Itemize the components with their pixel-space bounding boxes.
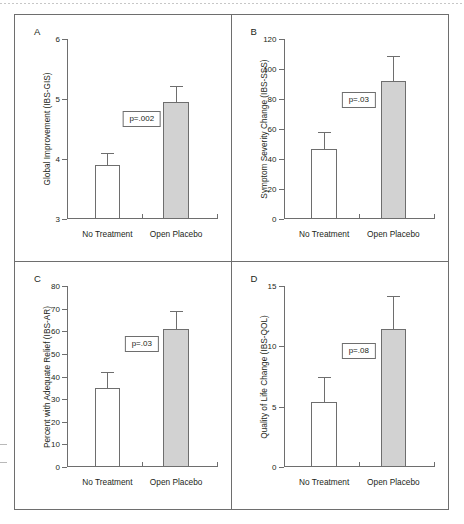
y-tick-label: 20 bbox=[268, 185, 277, 194]
y-tick-label: 70 bbox=[51, 304, 60, 313]
error-bar-stem bbox=[107, 153, 108, 165]
edge-crop-mark-upper bbox=[0, 444, 7, 445]
y-tick-mark bbox=[279, 407, 284, 408]
y-axis-label-d: Quality of Life Change (IBS-QOL) bbox=[259, 315, 269, 439]
page-top-rule bbox=[0, 3, 464, 4]
x-tick-label-open-placebo: Open Placebo bbox=[367, 477, 420, 487]
y-tick-mark bbox=[62, 444, 67, 445]
error-bar-cap bbox=[387, 56, 400, 57]
y-tick-label: 5 bbox=[272, 402, 276, 411]
y-tick-label: 60 bbox=[268, 125, 277, 134]
y-tick-mark bbox=[62, 286, 67, 287]
y-tick-mark bbox=[62, 377, 67, 378]
panel-a: AGlobal Improvement (IBS-GIS)3456No Trea… bbox=[15, 15, 232, 262]
y-axis-label-wrap-a: Global Improvement (IBS-GIS) bbox=[35, 39, 49, 219]
bar-a-open-placebo bbox=[163, 102, 188, 219]
x-tick-mark bbox=[284, 462, 285, 467]
panel-letter-a: A bbox=[34, 26, 41, 37]
error-bar-stem bbox=[393, 56, 394, 82]
x-tick-label-open-placebo: Open Placebo bbox=[150, 477, 203, 487]
x-tick-label-no-treatment: No Treatment bbox=[299, 477, 349, 487]
y-tick-label: 6 bbox=[56, 35, 60, 44]
y-tick-mark bbox=[279, 99, 284, 100]
y-tick-label: 60 bbox=[51, 327, 60, 336]
x-tick-label-no-treatment: No Treatment bbox=[299, 229, 349, 239]
panel-letter-c: C bbox=[34, 273, 41, 284]
error-bar-cap bbox=[170, 86, 183, 87]
y-axis-line bbox=[284, 286, 285, 467]
y-tick-label: 3 bbox=[56, 215, 60, 224]
y-tick-mark bbox=[62, 309, 67, 310]
y-tick-label: 40 bbox=[268, 155, 277, 164]
y-tick-label: 20 bbox=[51, 417, 60, 426]
edge-crop-mark-lower bbox=[0, 462, 7, 463]
y-tick-mark bbox=[62, 331, 67, 332]
p-value-box-a: p=.002 bbox=[122, 111, 161, 127]
bar-c-no-treatment bbox=[95, 388, 120, 467]
bar-b-no-treatment bbox=[311, 149, 337, 220]
bar-d-open-placebo bbox=[381, 329, 407, 467]
y-tick-mark bbox=[62, 467, 67, 468]
p-value-box-d: p=.08 bbox=[342, 343, 376, 359]
x-tick-mark bbox=[359, 462, 360, 467]
plot-area-d: 051015No TreatmentOpen Placebop=.08 bbox=[284, 286, 435, 467]
panel-letter-b: B bbox=[251, 26, 258, 37]
x-tick-mark bbox=[359, 214, 360, 219]
x-tick-mark bbox=[434, 214, 435, 219]
x-tick-label-open-placebo: Open Placebo bbox=[367, 229, 420, 239]
y-tick-label: 80 bbox=[268, 95, 277, 104]
y-tick-label: 10 bbox=[268, 342, 277, 351]
figure-frame: AGlobal Improvement (IBS-GIS)3456No Trea… bbox=[14, 14, 449, 510]
y-axis-line bbox=[67, 286, 68, 467]
bar-a-no-treatment bbox=[95, 165, 120, 219]
error-bar-stem bbox=[324, 377, 325, 402]
y-tick-mark bbox=[279, 219, 284, 220]
y-tick-mark bbox=[279, 189, 284, 190]
y-tick-label: 100 bbox=[263, 65, 276, 74]
x-tick-mark bbox=[142, 462, 143, 467]
y-tick-label: 15 bbox=[268, 282, 277, 291]
panel-b: BSymptom Severity Change (IBS-SSS)020406… bbox=[232, 15, 449, 262]
error-bar-stem bbox=[176, 86, 177, 102]
y-tick-label: 40 bbox=[51, 372, 60, 381]
plot-area-b: 020406080100120No TreatmentOpen Placebop… bbox=[284, 39, 435, 219]
error-bar-cap bbox=[387, 296, 400, 297]
y-tick-mark bbox=[279, 286, 284, 287]
y-tick-label: 50 bbox=[51, 349, 60, 358]
y-tick-label: 5 bbox=[56, 95, 60, 104]
error-bar-cap bbox=[318, 132, 331, 133]
y-tick-mark bbox=[279, 129, 284, 130]
bar-d-no-treatment bbox=[311, 402, 337, 467]
y-tick-label: 80 bbox=[51, 282, 60, 291]
y-axis-line bbox=[67, 39, 68, 219]
y-tick-label: 0 bbox=[56, 463, 60, 472]
y-tick-label: 120 bbox=[263, 35, 276, 44]
x-tick-label-no-treatment: No Treatment bbox=[82, 477, 132, 487]
y-tick-label: 0 bbox=[272, 463, 276, 472]
y-tick-mark bbox=[62, 219, 67, 220]
y-axis-label-a: Global Improvement (IBS-GIS) bbox=[42, 73, 52, 186]
y-axis-line bbox=[284, 39, 285, 219]
y-tick-mark bbox=[62, 354, 67, 355]
plot-area-a: 3456No TreatmentOpen Placebop=.002 bbox=[67, 39, 217, 219]
error-bar-stem bbox=[176, 311, 177, 329]
error-bar-cap bbox=[318, 377, 331, 378]
y-tick-mark bbox=[279, 159, 284, 160]
p-value-box-c: p=.03 bbox=[125, 336, 159, 352]
y-tick-mark bbox=[279, 467, 284, 468]
y-tick-label: 10 bbox=[51, 440, 60, 449]
panel-letter-d: D bbox=[251, 273, 258, 284]
y-tick-mark bbox=[62, 159, 67, 160]
error-bar-cap bbox=[170, 311, 183, 312]
error-bar-cap bbox=[101, 372, 114, 373]
panel-d: DQuality of Life Change (IBS-QOL)051015N… bbox=[232, 262, 449, 509]
y-tick-label: 0 bbox=[272, 215, 276, 224]
panel-c: CPercent with Adequate Relief (IBS-AR)01… bbox=[15, 262, 232, 509]
y-axis-label-wrap-d: Quality of Life Change (IBS-QOL) bbox=[252, 286, 266, 467]
y-tick-mark bbox=[62, 39, 67, 40]
plot-area-c: 01020304050607080No TreatmentOpen Placeb… bbox=[67, 286, 217, 467]
error-bar-stem bbox=[393, 296, 394, 330]
p-value-box-b: p=.03 bbox=[342, 92, 376, 108]
x-tick-mark bbox=[217, 214, 218, 219]
y-tick-mark bbox=[279, 346, 284, 347]
